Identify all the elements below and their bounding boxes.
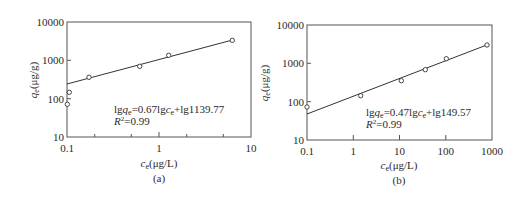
x-tick-label: 1 bbox=[351, 145, 357, 157]
panel-label-b: (b) bbox=[393, 174, 406, 187]
x-tick-label: 100 bbox=[438, 145, 455, 157]
data-points-a bbox=[65, 38, 234, 106]
y-tick-label: 100 bbox=[48, 93, 65, 105]
x-tick-label: 0.1 bbox=[60, 142, 74, 154]
y-axis-title-a: qe(μg/g) bbox=[27, 61, 41, 98]
x-axis-title-b: ce(μg/L) bbox=[381, 159, 418, 173]
data-point bbox=[444, 57, 448, 61]
data-point bbox=[399, 79, 403, 83]
y-ticks-b bbox=[307, 63, 311, 101]
chart-b: 10000 1000 100 10 0.1 1 10 100 1000 lgqe… bbox=[258, 19, 504, 187]
x-axis-title-a: ce(μg/L) bbox=[141, 157, 178, 171]
x-tick-label: 10 bbox=[246, 142, 258, 154]
panel-label-a: (a) bbox=[153, 172, 166, 185]
data-point bbox=[87, 75, 91, 79]
r-squared-b: R2=0.99 bbox=[365, 118, 402, 130]
data-point bbox=[167, 53, 171, 57]
x-tick-label: 10 bbox=[394, 145, 406, 157]
data-point bbox=[359, 94, 363, 98]
fit-line-b bbox=[307, 45, 488, 115]
r-squared-a: R2=0.99 bbox=[113, 115, 150, 127]
y-tick-label: 1000 bbox=[42, 54, 65, 66]
y-tick-label: 1000 bbox=[282, 57, 305, 69]
y-tick-label: 100 bbox=[288, 96, 305, 108]
figure: 10000 1000 100 10 0.1 1 10 lgqe=0.67lgce… bbox=[0, 0, 523, 203]
x-tick-label: 1000 bbox=[481, 145, 504, 157]
x-tick-label: 0.1 bbox=[300, 145, 314, 157]
chart-a: 10000 1000 100 10 0.1 1 10 lgqe=0.67lgce… bbox=[27, 16, 257, 185]
y-axis-title-b: qe(μg/g) bbox=[258, 64, 272, 101]
x-ticks-a bbox=[95, 132, 224, 137]
data-point bbox=[65, 102, 69, 106]
data-point bbox=[423, 68, 427, 72]
data-point bbox=[485, 43, 489, 47]
y-tick-label: 10000 bbox=[277, 19, 305, 31]
data-point bbox=[67, 90, 71, 94]
x-tick-label: 1 bbox=[156, 142, 162, 154]
data-point bbox=[305, 105, 309, 109]
y-tick-label: 10000 bbox=[37, 16, 65, 28]
x-ticks-b bbox=[353, 135, 446, 140]
data-points-b bbox=[305, 43, 489, 109]
data-point bbox=[138, 64, 142, 68]
plot-frame-a bbox=[67, 22, 251, 137]
fit-line-a bbox=[67, 40, 233, 84]
data-point bbox=[230, 38, 234, 42]
